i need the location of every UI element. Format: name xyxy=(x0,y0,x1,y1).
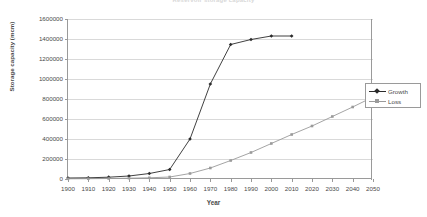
data-point-marker xyxy=(270,142,273,145)
x-axis-tick-label: 1960 xyxy=(183,185,197,192)
y-axis-tick-label: 800000 xyxy=(42,96,63,102)
x-axis-tick-label: 2010 xyxy=(285,185,299,192)
data-point-marker xyxy=(208,82,212,86)
x-axis-tick xyxy=(353,179,354,182)
series-loss xyxy=(67,96,375,180)
x-axis-tick xyxy=(312,179,313,182)
data-point-marker xyxy=(67,178,70,181)
y-axis-title: Storage capacity (mcm) xyxy=(8,2,15,112)
x-axis-tick-label: 2050 xyxy=(366,185,380,192)
x-axis-tick-label: 1990 xyxy=(244,185,258,192)
x-axis-tick-label: 2000 xyxy=(264,185,278,192)
data-point-marker xyxy=(351,106,354,109)
data-point-marker xyxy=(128,177,131,180)
series-line xyxy=(68,97,373,179)
x-axis-tick xyxy=(210,179,211,182)
data-point-marker xyxy=(331,115,334,118)
data-point-marker xyxy=(189,172,192,175)
data-point-marker xyxy=(269,34,273,38)
diamond-marker-icon xyxy=(374,88,380,94)
y-axis-tick-label: 1200000 xyxy=(39,56,63,62)
chart-title: Reservoir storage capacity xyxy=(0,0,427,4)
square-marker-icon xyxy=(375,99,379,103)
series-growth xyxy=(66,34,293,180)
data-point-marker xyxy=(168,176,171,179)
y-axis-tick-label: 200000 xyxy=(42,156,63,162)
series-plot xyxy=(68,19,373,179)
x-axis-tick-label: 1950 xyxy=(163,185,177,192)
x-axis-tick xyxy=(170,179,171,182)
data-point-marker xyxy=(107,177,110,180)
data-point-marker xyxy=(249,38,253,42)
x-axis-tick-label: 1970 xyxy=(203,185,217,192)
legend-item-loss: Loss xyxy=(369,96,417,106)
series-line xyxy=(68,36,292,178)
y-axis-tick-label: 1000000 xyxy=(39,76,63,82)
x-axis-tick xyxy=(271,179,272,182)
data-point-marker xyxy=(290,34,294,38)
data-point-marker xyxy=(311,125,314,128)
x-axis-tick-label: 2030 xyxy=(325,185,339,192)
x-axis-tick xyxy=(332,179,333,182)
y-axis-tick-label: 1400000 xyxy=(39,36,63,42)
data-point-marker xyxy=(250,151,253,154)
chart-legend: Growth Loss xyxy=(365,83,421,108)
x-axis-tick-label: 1900 xyxy=(61,185,75,192)
data-point-marker xyxy=(290,133,293,136)
y-axis-tick-label: 600000 xyxy=(42,116,63,122)
y-axis-tick-label: 1600000 xyxy=(39,16,63,22)
x-axis-tick-label: 2040 xyxy=(346,185,360,192)
plot-area: 0200000400000600000800000100000012000001… xyxy=(67,19,372,179)
y-axis-tick-label: 0 xyxy=(60,176,63,182)
x-axis-tick xyxy=(292,179,293,182)
x-axis-tick-label: 1930 xyxy=(122,185,136,192)
y-axis-tick-label: 400000 xyxy=(42,136,63,142)
x-axis-tick-label: 1940 xyxy=(142,185,156,192)
legend-swatch-growth xyxy=(369,87,386,96)
data-point-marker xyxy=(229,43,233,47)
data-point-marker xyxy=(147,172,151,176)
data-point-marker xyxy=(87,177,90,180)
data-point-marker xyxy=(209,167,212,170)
x-axis-tick-label: 2020 xyxy=(305,185,319,192)
data-point-marker xyxy=(229,159,232,162)
chart-container: Reservoir storage capacity Storage capac… xyxy=(0,0,427,217)
x-axis-tick xyxy=(251,179,252,182)
x-axis-tick-label: 1980 xyxy=(224,185,238,192)
legend-item-growth: Growth xyxy=(369,86,417,96)
x-axis-tick xyxy=(149,179,150,182)
legend-label-growth: Growth xyxy=(386,87,408,96)
x-axis-tick xyxy=(373,179,374,182)
legend-swatch-loss xyxy=(369,97,386,106)
x-axis-tick-label: 1910 xyxy=(81,185,95,192)
x-axis-tick-label: 1920 xyxy=(102,185,116,192)
x-axis-tick xyxy=(190,179,191,182)
data-point-marker xyxy=(148,177,151,180)
legend-label-loss: Loss xyxy=(386,97,401,106)
x-axis-tick xyxy=(231,179,232,182)
x-axis-title: Year xyxy=(0,199,427,206)
